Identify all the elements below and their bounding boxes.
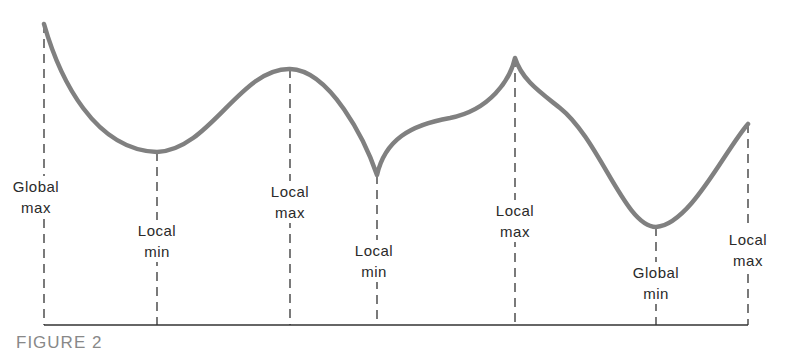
label-line: max	[271, 202, 309, 223]
function-curve	[44, 24, 748, 227]
label-line: min	[633, 283, 679, 304]
label-line: max	[729, 250, 767, 271]
extrema-diagram	[0, 0, 795, 361]
label-local-max-3: Local max	[728, 229, 768, 271]
label-local-min-2: Local min	[354, 240, 394, 282]
label-global-max: Global max	[12, 176, 60, 218]
label-line: min	[138, 241, 176, 262]
label-line: Global	[13, 176, 59, 197]
label-line: Local	[355, 240, 393, 261]
label-line: max	[13, 197, 59, 218]
figure-caption: FIGURE 2	[16, 333, 102, 353]
label-line: Local	[729, 229, 767, 250]
label-line: min	[355, 261, 393, 282]
label-line: Local	[138, 220, 176, 241]
label-local-max-1: Local max	[270, 181, 310, 223]
label-line: max	[496, 221, 534, 242]
label-local-min-1: Local min	[137, 220, 177, 262]
label-line: Local	[271, 181, 309, 202]
label-line: Local	[496, 200, 534, 221]
label-line: Global	[633, 262, 679, 283]
label-global-min: Global min	[632, 262, 680, 304]
label-local-max-2: Local max	[495, 200, 535, 242]
